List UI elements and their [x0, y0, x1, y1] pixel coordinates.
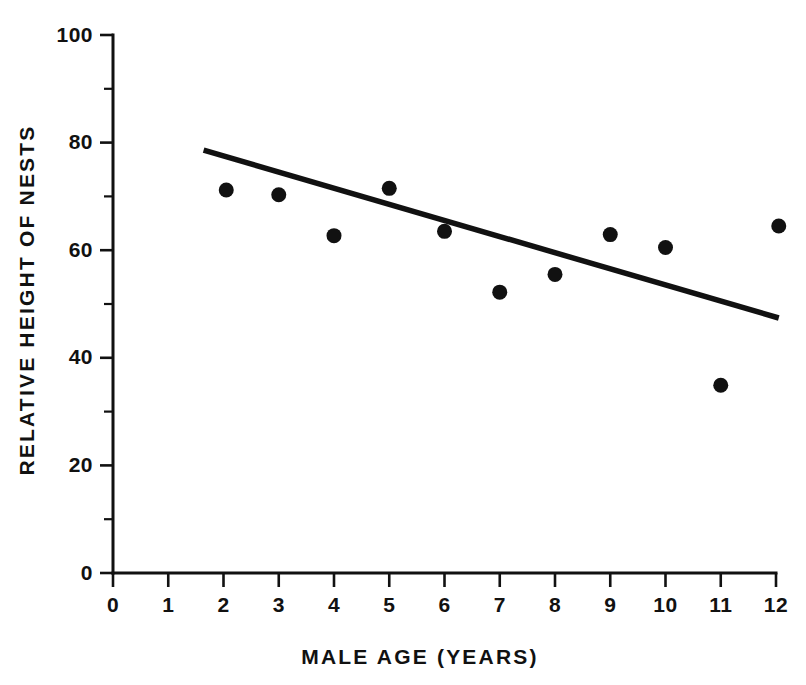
- x-tick-label: 8: [549, 593, 561, 616]
- x-tick-label: 10: [653, 593, 677, 616]
- data-point: [327, 228, 342, 243]
- x-tick-label: 2: [217, 593, 229, 616]
- data-point: [713, 378, 728, 393]
- scatter-points-group: [219, 181, 787, 393]
- data-point: [548, 267, 563, 282]
- y-axis-title: RELATIVE HEIGHT OF NESTS: [15, 124, 38, 475]
- x-tick-label: 9: [604, 593, 616, 616]
- x-axis-tick-labels: 0123456789101112: [107, 593, 788, 616]
- x-axis-ticks: [113, 573, 776, 587]
- data-point: [658, 240, 673, 255]
- y-tick-label: 80: [69, 130, 93, 153]
- y-tick-label: 0: [81, 561, 93, 584]
- x-tick-label: 5: [383, 593, 395, 616]
- y-tick-label: 20: [69, 453, 93, 476]
- y-tick-label: 100: [56, 23, 93, 46]
- regression-line-group: [204, 150, 779, 318]
- data-point: [271, 187, 286, 202]
- y-tick-label: 60: [69, 238, 93, 261]
- y-tick-label: 40: [69, 345, 93, 368]
- x-tick-label: 1: [162, 593, 174, 616]
- y-axis-tick-labels: 020406080100: [56, 23, 93, 584]
- x-axis-title: MALE AGE (YEARS): [301, 645, 538, 668]
- axes-group: [113, 35, 776, 573]
- chart-figure: 020406080100 0123456789101112 MALE AGE (…: [0, 0, 806, 685]
- x-tick-label: 12: [764, 593, 788, 616]
- data-point: [492, 285, 507, 300]
- data-point: [437, 224, 452, 239]
- scatter-plot-canvas: 020406080100 0123456789101112 MALE AGE (…: [0, 0, 806, 685]
- x-tick-label: 6: [438, 593, 450, 616]
- x-tick-label: 7: [494, 593, 506, 616]
- x-tick-label: 11: [709, 593, 732, 616]
- data-point: [771, 218, 786, 233]
- data-point: [219, 182, 234, 197]
- data-point: [603, 227, 618, 242]
- x-tick-label: 0: [107, 593, 119, 616]
- y-axis-ticks: [100, 35, 113, 573]
- regression-line: [204, 150, 779, 318]
- x-tick-label: 4: [328, 593, 340, 616]
- data-point: [382, 181, 397, 196]
- x-tick-label: 3: [273, 593, 285, 616]
